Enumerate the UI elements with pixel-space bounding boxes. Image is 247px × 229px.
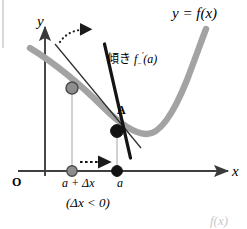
curve-equation-label: y = f(x) (172, 6, 217, 21)
derivative-figure: y = f(x) y x O A 傾き f−′(a) a + Δx a (Δx … (0, 0, 247, 229)
delta-condition-text: (Δx < 0) (66, 195, 110, 210)
moving-point-on-curve (66, 82, 78, 94)
delta-condition-label: (Δx < 0) (66, 196, 110, 209)
y-axis-label: y (37, 14, 44, 29)
point-a-label: A (117, 104, 126, 116)
tick-label-a-plus-delta-x: a + Δx (62, 177, 94, 189)
x-axis-label: x (232, 164, 239, 179)
slope-annotation: 傾き f−′(a) (107, 51, 157, 69)
tick-label-a-plus-delta-x-text: a + Δx (62, 176, 94, 190)
point-a-label-text: A (117, 103, 126, 117)
x-axis-label-text: x (232, 163, 239, 179)
corner-text-fragment: f(x) (210, 214, 228, 227)
x-marker-a-plus-delta (67, 166, 77, 176)
origin-label: O (12, 176, 21, 188)
rotation-dotted-arrow (60, 30, 86, 42)
x-marker-a (112, 166, 123, 177)
point-a-marker (111, 125, 124, 138)
y-axis-label-text: y (37, 13, 44, 29)
tick-label-a: a (117, 177, 123, 189)
slope-argument-text: (a) (143, 52, 157, 66)
slope-subscript-symbol: − (137, 60, 141, 68)
tick-label-a-text: a (117, 176, 123, 190)
corner-text-fragment-text: f(x) (210, 213, 228, 228)
origin-label-text: O (12, 175, 21, 189)
curve-equation-text: y = f(x) (172, 5, 217, 21)
slope-prefix-text: 傾き (107, 52, 131, 66)
